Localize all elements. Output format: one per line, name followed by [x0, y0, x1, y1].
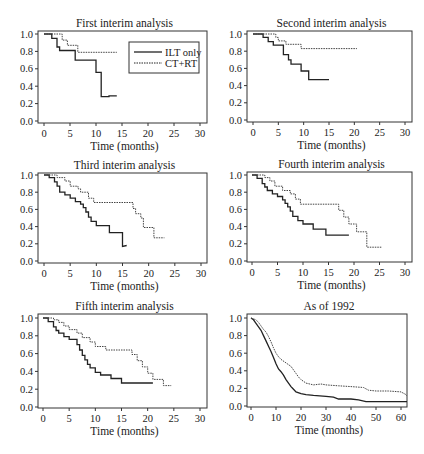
panel-title: Second interim analysis: [277, 17, 387, 30]
panel-title: Third interim analysis: [74, 159, 176, 172]
panel-title: Fourth interim analysis: [278, 158, 385, 171]
x-tick-label: 30: [196, 268, 207, 279]
x-tick-label: 5: [276, 127, 281, 138]
x-tick-label: 15: [117, 268, 128, 279]
y-tick-label: 0.8: [20, 46, 33, 57]
x-tick-label: 10: [271, 412, 282, 423]
y-tick-label: 0.8: [20, 330, 33, 341]
y-tick-label: 0.4: [20, 221, 34, 232]
y-tick-label: 0.6: [20, 63, 33, 74]
y-tick-label: 0.4: [229, 80, 243, 91]
x-tick-label: 30: [400, 267, 411, 278]
y-tick-label: 0.2: [229, 383, 242, 394]
series-ct-rt: [44, 34, 117, 52]
series-ilt-only: [43, 318, 153, 383]
x-tick-label: 15: [323, 267, 334, 278]
panel-6: As of 19920.00.20.40.60.81.0010203040506…: [229, 300, 414, 437]
x-tick-label: 25: [374, 267, 385, 278]
x-tick-label: 5: [67, 128, 72, 139]
plot-frame: [38, 173, 207, 263]
x-tick-label: 20: [349, 127, 360, 138]
x-tick-label: 5: [67, 413, 72, 424]
x-tick-label: 20: [349, 267, 360, 278]
x-axis-label: Time (months): [90, 425, 158, 438]
series-ct-rt: [252, 175, 382, 247]
series-ct-rt: [44, 175, 164, 238]
legend-label: CT+RT: [165, 58, 198, 69]
y-tick-label: 0.0: [229, 256, 242, 267]
x-tick-label: 15: [324, 127, 335, 138]
y-tick-label: 0.6: [20, 204, 33, 215]
x-tick-label: 0: [40, 413, 45, 424]
panel-5: Fifth interim analysis0.00.20.40.60.81.0…: [20, 300, 207, 438]
x-tick-label: 0: [41, 268, 46, 279]
plot-frame: [247, 31, 412, 122]
y-tick-label: 0.8: [229, 187, 242, 198]
x-tick-label: 10: [298, 127, 309, 138]
legend: ILT onlyCT+RT: [129, 42, 202, 73]
plot-frame: [247, 314, 407, 407]
y-tick-label: 0.2: [20, 238, 33, 249]
series-ilt-only: [253, 34, 329, 80]
x-tick-label: 5: [68, 268, 73, 279]
x-tick-label: 30: [400, 127, 411, 138]
x-tick-label: 0: [249, 267, 254, 278]
x-tick-label: 10: [91, 268, 102, 279]
x-tick-label: 40: [346, 412, 357, 423]
y-tick-label: 0.8: [229, 46, 242, 57]
x-tick-label: 50: [371, 412, 382, 423]
x-tick-label: 0: [248, 412, 253, 423]
x-tick-label: 10: [90, 413, 101, 424]
x-axis-label: Time (months): [295, 424, 363, 437]
x-tick-label: 25: [374, 127, 385, 138]
x-tick-label: 30: [321, 412, 332, 423]
plot-frame: [38, 314, 207, 408]
y-tick-label: 1.0: [229, 29, 242, 40]
x-axis-label: Time (months): [297, 279, 365, 292]
y-tick-label: 1.0: [20, 313, 33, 324]
y-tick-label: 0.2: [20, 98, 33, 109]
y-tick-label: 1.0: [20, 170, 33, 181]
x-tick-label: 10: [298, 267, 309, 278]
km-figure: First interim analysis0.00.20.40.60.81.0…: [0, 0, 424, 454]
series-ilt-only: [44, 34, 117, 97]
y-tick-label: 0.4: [229, 365, 243, 376]
y-tick-label: 1.0: [20, 29, 33, 40]
y-tick-label: 0.2: [229, 97, 242, 108]
x-tick-label: 60: [396, 412, 407, 423]
panel-title: As of 1992: [303, 300, 354, 312]
y-tick-label: 1.0: [229, 170, 242, 181]
y-tick-label: 0.0: [20, 256, 33, 267]
plot-frame: [247, 172, 412, 262]
y-tick-label: 0.6: [20, 348, 33, 359]
legend-label: ILT only: [165, 47, 202, 58]
panel-1: First interim analysis0.00.20.40.60.81.0…: [20, 17, 207, 153]
x-tick-label: 25: [169, 128, 180, 139]
x-tick-label: 20: [143, 128, 154, 139]
x-tick-label: 25: [170, 268, 181, 279]
panel-4: Fourth interim analysis0.00.20.40.60.81.…: [229, 158, 412, 292]
x-axis-label: Time (months): [297, 139, 365, 152]
x-tick-label: 30: [195, 128, 206, 139]
y-tick-label: 1.0: [229, 313, 242, 324]
y-tick-label: 0.0: [229, 115, 242, 126]
x-tick-label: 30: [195, 413, 206, 424]
series-ilt-only: [252, 175, 349, 235]
panel-2: Second interim analysis0.00.20.40.60.81.…: [229, 17, 412, 152]
x-tick-label: 15: [116, 413, 127, 424]
y-tick-label: 0.8: [20, 187, 33, 198]
panel-title: First interim analysis: [76, 17, 174, 30]
x-tick-label: 0: [250, 127, 255, 138]
panel-3: Third interim analysis0.00.20.40.60.81.0…: [20, 159, 207, 293]
y-tick-label: 0.0: [20, 402, 33, 413]
y-tick-label: 0.6: [229, 204, 242, 215]
series-ilt-only: [44, 175, 127, 246]
x-axis-label: Time (months): [90, 280, 158, 293]
x-tick-label: 20: [296, 412, 307, 423]
y-tick-label: 0.2: [20, 384, 33, 395]
x-tick-label: 25: [169, 413, 180, 424]
series-ilt-only: [251, 318, 414, 402]
y-tick-label: 0.6: [229, 348, 242, 359]
y-tick-label: 0.4: [20, 81, 34, 92]
series-ct-rt: [251, 318, 414, 397]
